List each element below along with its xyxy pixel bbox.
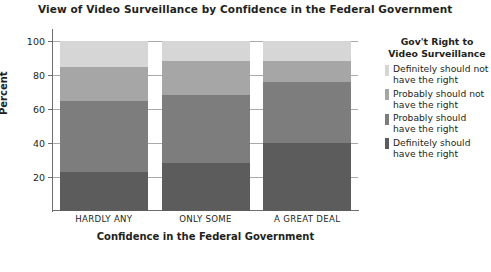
- bar-segment: [60, 172, 148, 211]
- y-tick-mark: [48, 143, 53, 144]
- x-category-label: ONLY SOME: [155, 214, 257, 224]
- x-category-label: A GREAT DEAL: [256, 214, 358, 224]
- bar-segment: [162, 95, 250, 163]
- legend-item-label: Probably should not have the right: [393, 88, 489, 111]
- legend-swatch-icon: [385, 138, 389, 149]
- y-axis-title: Percent: [0, 71, 9, 115]
- y-tick-label: 20: [33, 172, 45, 183]
- legend-title: Gov't Right to Video Surveillance: [385, 36, 489, 59]
- bar-segment: [162, 163, 250, 211]
- legend-item-list: Definitely should not have the rightProb…: [385, 63, 489, 159]
- bar-stack: [60, 41, 148, 211]
- y-tick-mark: [48, 75, 53, 76]
- bar-segment: [162, 61, 250, 95]
- plot-area: 20406080100: [53, 41, 358, 211]
- x-category-label: HARDLY ANY: [53, 214, 155, 224]
- y-tick-mark: [48, 41, 53, 42]
- y-tick-mark: [48, 177, 53, 178]
- legend-item[interactable]: Definitely should have the right: [385, 137, 489, 160]
- bar-stack: [263, 41, 351, 211]
- y-tick-label: 80: [33, 70, 45, 81]
- y-tick-label: 60: [33, 104, 45, 115]
- x-axis-title: Confidence in the Federal Government: [53, 231, 358, 242]
- bar-stack: [162, 41, 250, 211]
- legend-item[interactable]: Definitely should not have the right: [385, 63, 489, 86]
- y-tick-mark: [48, 109, 53, 110]
- chart-title: View of Video Surveillance by Confidence…: [38, 3, 452, 15]
- y-tick-label: 100: [27, 36, 45, 47]
- legend: Gov't Right to Video Surveillance Defini…: [385, 36, 489, 161]
- chart-root: View of Video Surveillance by Confidence…: [0, 0, 491, 272]
- legend-item-label: Definitely should have the right: [393, 137, 489, 160]
- bar-segment: [263, 41, 351, 61]
- legend-item[interactable]: Probably should not have the right: [385, 88, 489, 111]
- bar-segment: [263, 143, 351, 211]
- bar-segment: [60, 41, 148, 67]
- legend-item[interactable]: Probably should have the right: [385, 112, 489, 135]
- bar-segment: [60, 101, 148, 172]
- bar-segment: [162, 41, 250, 61]
- bar-segment: [263, 82, 351, 143]
- bar-segment: [263, 61, 351, 81]
- legend-item-label: Definitely should not have the right: [393, 63, 489, 86]
- legend-swatch-icon: [385, 89, 389, 100]
- y-tick-label: 40: [33, 138, 45, 149]
- legend-swatch-icon: [385, 114, 389, 125]
- bar-segment: [60, 67, 148, 101]
- legend-item-label: Probably should have the right: [393, 112, 489, 135]
- legend-swatch-icon: [385, 65, 389, 76]
